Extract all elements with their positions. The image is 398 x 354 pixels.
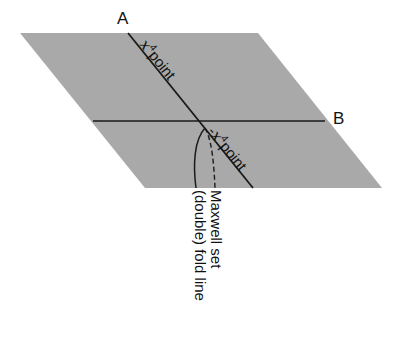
label-point-b: B xyxy=(333,110,344,127)
label-point-a: A xyxy=(117,10,128,27)
label-double-fold-line: (double) fold line xyxy=(193,190,208,301)
label-maxwell-set: Maxwell set xyxy=(209,190,224,268)
plane-parallelogram xyxy=(20,33,382,188)
